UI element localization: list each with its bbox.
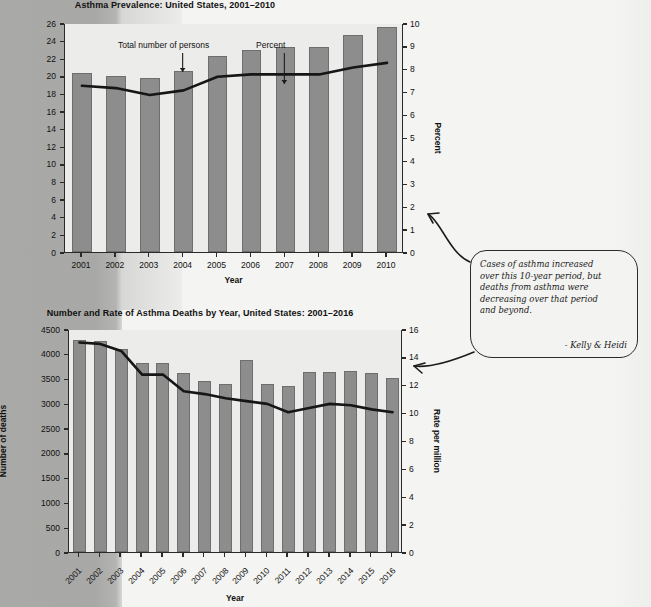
y-tick bbox=[64, 404, 68, 405]
note-signature: - Kelly & Heidi bbox=[565, 340, 627, 350]
y2-tick bbox=[402, 552, 406, 553]
y2-tick bbox=[402, 385, 406, 386]
y2-tick bbox=[402, 413, 406, 414]
y-tick-label-3000: 3000 bbox=[26, 399, 60, 409]
y-tick-label-2500: 2500 bbox=[26, 424, 60, 434]
y-tick bbox=[64, 528, 68, 529]
y-tick bbox=[64, 503, 68, 504]
x-tick bbox=[328, 553, 329, 557]
y-tick-label-500: 500 bbox=[26, 523, 60, 533]
y2-tick bbox=[402, 357, 406, 358]
x-tick bbox=[182, 553, 183, 557]
note-line-2: over this 10-year period, but bbox=[480, 271, 629, 283]
y2-tick bbox=[402, 469, 406, 470]
annotation-arrows bbox=[0, 0, 470, 300]
handwritten-annotation: Cases of asthma increased over this 10-y… bbox=[470, 250, 638, 358]
y-tick bbox=[64, 379, 68, 380]
x-tick bbox=[349, 553, 350, 557]
y-tick-label-2000: 2000 bbox=[26, 448, 60, 458]
y-tick bbox=[64, 329, 68, 330]
chart-asthma-prevalence: Asthma Prevalence: United States, 2001–2… bbox=[0, 0, 470, 300]
y-tick bbox=[64, 478, 68, 479]
annotation-arrowhead-icon-2 bbox=[282, 80, 288, 84]
x-tick bbox=[224, 553, 225, 557]
annotation-label-2: Percent bbox=[256, 40, 285, 50]
note-line-3: deaths from asthma were bbox=[480, 282, 629, 294]
x-tick bbox=[203, 553, 204, 557]
x-axis-title: Year bbox=[205, 593, 265, 603]
y-tick-label-4000: 4000 bbox=[26, 349, 60, 359]
x-tick bbox=[286, 553, 287, 557]
x-tick bbox=[99, 553, 100, 557]
chart-asthma-deaths: Number and Rate of Asthma Deaths by Year… bbox=[0, 308, 470, 607]
y2-axis-title: Rate per million bbox=[431, 329, 441, 552]
x-tick bbox=[119, 553, 120, 557]
note-line-5: and beyond. bbox=[480, 305, 629, 317]
annotation-arrowhead-icon-1 bbox=[180, 68, 186, 72]
x-tick bbox=[391, 553, 392, 557]
y-axis-title: Number of deaths bbox=[0, 329, 7, 552]
y-tick-label-1500: 1500 bbox=[26, 473, 60, 483]
y-tick bbox=[64, 453, 68, 454]
x-tick bbox=[370, 553, 371, 557]
y2-tick bbox=[402, 524, 406, 525]
y-tick-label-0: 0 bbox=[26, 548, 60, 558]
chart2-plot-area bbox=[68, 330, 402, 553]
note-line-1: Cases of asthma increased bbox=[480, 259, 629, 271]
note-line-4: decreasing over that period bbox=[480, 294, 629, 306]
y-tick-label-4500: 4500 bbox=[26, 325, 60, 335]
x-tick bbox=[140, 553, 141, 557]
line-series-overlay bbox=[69, 330, 403, 553]
x-tick bbox=[307, 553, 308, 557]
y-tick-label-1000: 1000 bbox=[26, 498, 60, 508]
chart2-title: Number and Rate of Asthma Deaths by Year… bbox=[0, 308, 400, 318]
y2-tick bbox=[402, 497, 406, 498]
note-text: Cases of asthma increased over this 10-y… bbox=[480, 259, 629, 317]
x-tick bbox=[245, 553, 246, 557]
x-tick bbox=[266, 553, 267, 557]
x-tick bbox=[78, 553, 79, 557]
y-tick bbox=[64, 428, 68, 429]
x-tick bbox=[161, 553, 162, 557]
y-tick bbox=[64, 552, 68, 553]
line-series-asthma-deaths bbox=[79, 343, 392, 413]
annotation-label-1: Total number of persons bbox=[118, 40, 209, 50]
y2-tick bbox=[402, 441, 406, 442]
y2-tick bbox=[402, 329, 406, 330]
y-tick bbox=[64, 354, 68, 355]
y-tick-label-3500: 3500 bbox=[26, 374, 60, 384]
